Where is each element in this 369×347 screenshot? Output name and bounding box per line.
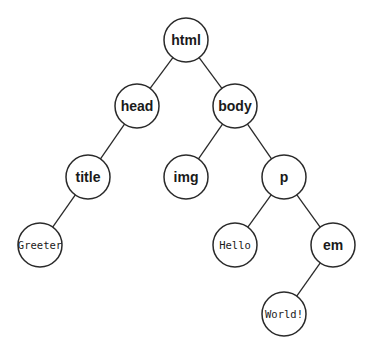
node-em: em — [311, 223, 355, 267]
edge-html-body — [199, 58, 222, 89]
edge-head-title — [100, 124, 124, 159]
edge-p-hello — [248, 195, 271, 227]
node-label: title — [76, 169, 101, 185]
node-world: World! — [262, 292, 306, 336]
node-label: Hello — [219, 239, 251, 251]
dom-tree-diagram: htmlheadbodytitleimgpGreeterHelloemWorld… — [0, 0, 369, 347]
node-label: p — [280, 169, 289, 185]
edge-html-head — [150, 58, 173, 89]
tree-nodes: htmlheadbodytitleimgpGreeterHelloemWorld… — [18, 18, 355, 336]
node-head: head — [115, 84, 159, 128]
node-label: World! — [265, 308, 303, 320]
node-img: img — [164, 155, 208, 199]
node-label: img — [174, 169, 199, 185]
edge-p-em — [297, 195, 320, 227]
node-label: em — [323, 237, 343, 253]
node-html: html — [164, 18, 208, 62]
edge-body-p — [247, 124, 271, 159]
node-label: html — [171, 32, 201, 48]
node-p: p — [262, 155, 306, 199]
node-greeter: Greeter — [18, 223, 62, 267]
node-label: head — [121, 98, 154, 114]
edge-em-world — [297, 263, 321, 296]
node-label: body — [218, 98, 252, 114]
node-title: title — [66, 155, 110, 199]
edge-title-greeter — [53, 195, 76, 227]
edge-body-img — [198, 124, 222, 159]
node-body: body — [213, 84, 257, 128]
node-hello: Hello — [213, 223, 257, 267]
node-label: Greeter — [18, 239, 62, 251]
